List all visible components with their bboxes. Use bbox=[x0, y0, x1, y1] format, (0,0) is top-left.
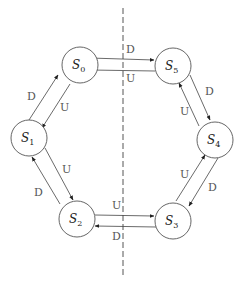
label-s5-s4: D bbox=[205, 85, 214, 98]
label-s1-s0: D bbox=[27, 90, 36, 103]
label-s0-s1: U bbox=[60, 101, 69, 114]
edge-s0-to-s5 bbox=[90, 58, 154, 60]
label-s3-s2: D bbox=[112, 230, 121, 243]
label-s2-s1: D bbox=[34, 186, 43, 199]
label-s5-s0: U bbox=[126, 72, 135, 85]
edge-s5-to-s0 bbox=[91, 70, 155, 71]
edge-s3-to-s2 bbox=[95, 226, 156, 227]
label-s3-s4: U bbox=[180, 168, 189, 181]
state-s0: S0 bbox=[62, 47, 98, 83]
label-s1-s2: U bbox=[62, 163, 71, 176]
state-s4: S4 bbox=[197, 122, 233, 158]
state-s3: S3 bbox=[155, 203, 191, 239]
state-s1: S1 bbox=[11, 120, 47, 156]
edge-s2-to-s3 bbox=[95, 215, 154, 216]
state-diagram: D U D U D U U D U D D U S0 S5 S1 S4 S2 bbox=[0, 0, 249, 282]
label-s0-s5: D bbox=[126, 43, 135, 56]
label-s2-s3: U bbox=[112, 199, 121, 212]
label-s4-s3: D bbox=[208, 181, 217, 194]
state-s2: S2 bbox=[59, 201, 95, 237]
label-s4-s5: U bbox=[180, 105, 189, 118]
state-s5: S5 bbox=[155, 48, 191, 84]
